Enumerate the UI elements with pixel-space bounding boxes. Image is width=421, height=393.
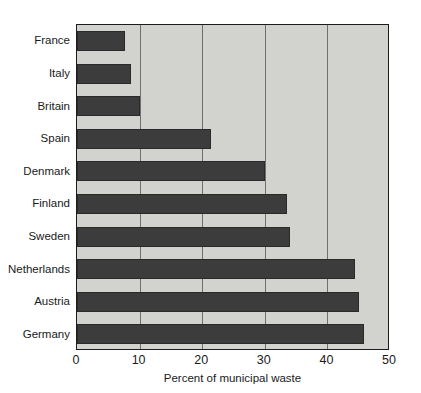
bar-finland	[77, 194, 287, 214]
bar-row	[77, 318, 390, 351]
category-label-netherlands: Netherlands	[0, 263, 70, 275]
bar-row	[77, 188, 390, 221]
bar-row	[77, 25, 390, 58]
x-axis-tick-labels: 01020304050	[76, 353, 389, 369]
x-tick-label-20: 20	[194, 353, 208, 367]
bar-france	[77, 31, 125, 51]
bar-row	[77, 253, 390, 286]
bar-row	[77, 221, 390, 254]
x-axis-title: Percent of municipal waste	[76, 372, 389, 384]
bar-row	[77, 286, 390, 319]
bar-italy	[77, 64, 131, 84]
category-label-spain: Spain	[0, 132, 70, 144]
x-tick-label-30: 30	[257, 353, 271, 367]
bar-netherlands	[77, 259, 355, 279]
x-tick-label-0: 0	[73, 353, 80, 367]
bar-sweden	[77, 227, 290, 247]
x-tick-label-50: 50	[382, 353, 396, 367]
bar-spain	[77, 129, 211, 149]
bar-austria	[77, 292, 359, 312]
bar-britain	[77, 96, 140, 116]
x-tick-label-10: 10	[132, 353, 146, 367]
x-tick-label-40: 40	[319, 353, 333, 367]
bar-denmark	[77, 161, 265, 181]
category-label-austria: Austria	[0, 295, 70, 307]
category-label-finland: Finland	[0, 197, 70, 209]
bar-row	[77, 58, 390, 91]
bar-row	[77, 123, 390, 156]
category-axis-labels: FranceItalyBritainSpainDenmarkFinlandSwe…	[0, 24, 70, 350]
category-label-germany: Germany	[0, 328, 70, 340]
category-label-italy: Italy	[0, 67, 70, 79]
plot-area	[76, 24, 389, 350]
bar-germany	[77, 324, 364, 344]
category-label-britain: Britain	[0, 100, 70, 112]
bar-row	[77, 155, 390, 188]
category-label-france: France	[0, 34, 70, 46]
category-label-denmark: Denmark	[0, 165, 70, 177]
category-label-sweden: Sweden	[0, 230, 70, 242]
bar-row	[77, 90, 390, 123]
bar-chart: FranceItalyBritainSpainDenmarkFinlandSwe…	[0, 0, 421, 393]
